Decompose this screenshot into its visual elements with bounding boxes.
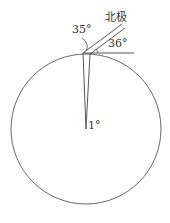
angle-arc-35 (82, 38, 87, 51)
north-pole-label: 北极 (105, 12, 127, 23)
radius-line-left (83, 53, 86, 129)
center-angle-label: 1° (88, 120, 101, 131)
angle-35-label: 35° (72, 24, 92, 35)
angle-36-label: 36° (108, 38, 128, 49)
angle-arc-36 (96, 49, 98, 53)
radius-line-right (86, 54, 90, 129)
